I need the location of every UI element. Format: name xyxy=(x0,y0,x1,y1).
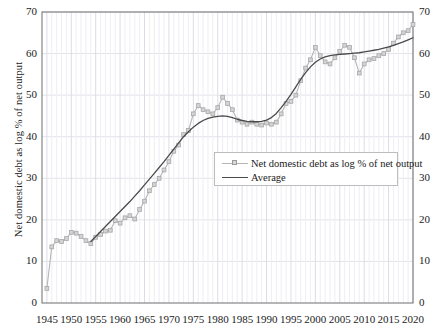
y-axis-left-tick-70: 70 xyxy=(11,5,37,17)
y-axis-left-tick-60: 60 xyxy=(11,47,37,59)
y-axis-left-tick-20: 20 xyxy=(11,213,37,225)
legend-label-average: Average xyxy=(251,172,286,183)
y-axis-left-tick-40: 40 xyxy=(11,130,37,142)
y-axis-left-tick-50: 50 xyxy=(11,88,37,100)
y-axis-right-tick-60: 60 xyxy=(419,47,439,59)
y-axis-right-tick-10: 10 xyxy=(419,254,439,266)
y-axis-left-tick-30: 30 xyxy=(11,171,37,183)
legend-item-net-domestic-debt: Net domestic debt as log % of net output xyxy=(222,156,422,170)
y-axis-right-tick-70: 70 xyxy=(419,5,439,17)
y-axis-right-tick-50: 50 xyxy=(419,88,439,100)
chart-legend: Net domestic debt as log % of net output… xyxy=(214,152,398,186)
y-axis-right-tick-0: 0 xyxy=(419,296,439,308)
x-axis-tick-2020: 2020 xyxy=(396,313,430,325)
legend-line-icon xyxy=(222,172,248,182)
legend-item-average: Average xyxy=(222,170,286,184)
y-axis-left-tick-0: 0 xyxy=(11,296,37,308)
y-axis-right-tick-30: 30 xyxy=(419,171,439,183)
y-axis-right-tick-20: 20 xyxy=(419,213,439,225)
legend-label-net-domestic-debt: Net domestic debt as log % of net output xyxy=(251,158,422,169)
chart-container: Net domestic debt as log % of net output… xyxy=(0,0,439,334)
legend-marker-square-line-icon xyxy=(222,158,248,168)
y-axis-left-tick-10: 10 xyxy=(11,254,37,266)
y-axis-right-tick-40: 40 xyxy=(419,130,439,142)
